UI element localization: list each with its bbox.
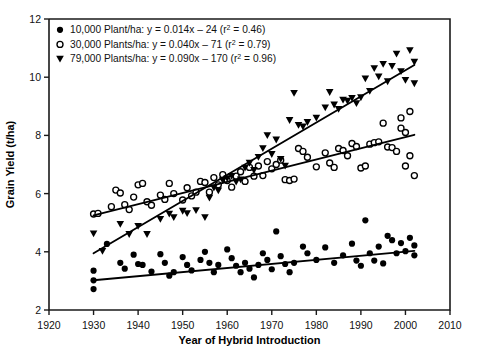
data-point	[206, 189, 212, 195]
data-point	[331, 164, 337, 170]
data-point	[286, 117, 294, 124]
data-point	[211, 175, 217, 181]
data-point	[313, 164, 319, 170]
data-point	[353, 257, 359, 263]
data-point	[229, 184, 235, 190]
y-tick-label: 6	[35, 188, 41, 200]
data-point	[370, 65, 378, 72]
data-point	[184, 185, 190, 191]
series-3	[90, 47, 418, 255]
data-point	[269, 266, 275, 272]
data-point	[362, 163, 368, 169]
figure-caption	[0, 354, 477, 364]
data-point	[206, 260, 212, 266]
data-point	[394, 148, 400, 154]
data-point	[116, 221, 124, 228]
data-point	[358, 263, 364, 269]
data-point	[148, 268, 154, 274]
legend-marker-2	[57, 41, 63, 47]
data-point	[268, 151, 276, 158]
data-point	[206, 195, 214, 202]
data-point	[398, 115, 404, 121]
x-tick-label: 1930	[82, 319, 106, 331]
legend-label-3: 79,000 Plants/ha: y = 0.090x – 170 (r2 =…	[70, 53, 276, 64]
legend-marker-3	[56, 56, 64, 63]
data-point	[349, 241, 355, 247]
data-point	[345, 153, 351, 159]
data-point	[304, 250, 310, 256]
data-point	[117, 260, 123, 266]
data-point	[122, 266, 128, 272]
data-point	[90, 268, 96, 274]
data-point	[300, 148, 306, 154]
data-point	[251, 274, 257, 280]
x-tick-label: 2000	[394, 319, 418, 331]
data-point	[148, 202, 154, 208]
x-tick-label: 1940	[126, 319, 150, 331]
x-tick-label: 1990	[349, 319, 373, 331]
data-point	[192, 207, 200, 214]
data-point	[180, 254, 186, 260]
data-point	[411, 242, 417, 248]
data-point	[229, 255, 235, 261]
data-point	[57, 41, 63, 47]
data-point	[371, 257, 377, 263]
data-point	[264, 159, 270, 165]
data-point	[108, 204, 114, 210]
data-point	[264, 257, 270, 263]
legend-label-1: 10,000 Plant/ha: y = 0.014x – 24 (r2 = 0…	[70, 24, 265, 35]
data-point	[260, 250, 266, 256]
data-point	[398, 240, 404, 246]
data-point	[278, 253, 284, 259]
data-point	[287, 269, 293, 275]
data-point	[376, 243, 382, 249]
data-point	[304, 154, 310, 160]
data-point	[326, 89, 334, 96]
x-tick-label: 1980	[305, 319, 329, 331]
data-point	[380, 120, 386, 126]
y-tick-label: 12	[29, 13, 41, 25]
data-point	[393, 51, 401, 58]
data-point	[215, 262, 221, 268]
data-point	[264, 132, 272, 139]
data-point	[202, 249, 208, 255]
data-point	[139, 262, 145, 268]
data-point	[117, 190, 123, 196]
data-point	[215, 187, 223, 194]
data-point	[57, 27, 63, 33]
data-point	[259, 145, 267, 152]
data-point	[406, 47, 414, 54]
x-tick-label: 1960	[216, 319, 240, 331]
data-point	[321, 105, 329, 112]
data-point	[224, 246, 230, 252]
data-point	[407, 153, 413, 159]
data-point	[131, 252, 137, 258]
x-tick-label: 1950	[171, 319, 195, 331]
legend-label-2: 30,000 Plants/ha: y = 0.040x – 71 (r2 = …	[70, 39, 270, 50]
data-point	[183, 210, 191, 217]
data-point	[157, 251, 163, 257]
data-point	[184, 262, 190, 268]
data-point	[300, 243, 306, 249]
regression-line-2	[94, 135, 415, 216]
x-tick-label: 1920	[37, 319, 61, 331]
data-point	[90, 286, 96, 292]
data-point	[56, 56, 64, 63]
data-point	[170, 214, 178, 221]
scatter-chart: 1920193019401950196019701980199020002010…	[0, 0, 477, 364]
figure-container: 1920193019401950196019701980199020002010…	[0, 0, 477, 364]
data-point	[197, 257, 203, 263]
legend: 10,000 Plant/ha: y = 0.014x – 24 (r2 = 0…	[56, 24, 276, 64]
data-point	[407, 235, 413, 241]
y-tick-label: 2	[35, 304, 41, 316]
x-tick-label: 1970	[260, 319, 284, 331]
data-point	[143, 231, 151, 238]
data-point	[201, 214, 209, 221]
data-point	[379, 61, 387, 68]
data-point	[362, 75, 370, 82]
data-point	[380, 260, 386, 266]
data-point	[322, 244, 328, 250]
data-point	[331, 260, 337, 266]
data-point	[166, 180, 172, 186]
data-point	[402, 77, 410, 84]
